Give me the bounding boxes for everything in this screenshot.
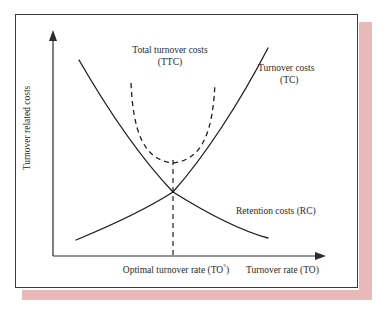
curve-total-turnover-costs (131, 83, 215, 163)
x-axis-arrowhead (315, 252, 326, 260)
y-axis-arrowhead (49, 30, 57, 41)
optimal-turnover-rate-label: Optimal turnover rate (TO°) (96, 264, 256, 276)
ttc-label-line1: Total turnover costs (106, 44, 234, 56)
ttc-curve-label: Total turnover costs (TTC) (106, 44, 234, 68)
optimal-label-suffix: ) (226, 265, 229, 275)
tc-curve-label: Turnover costs (TC) (258, 62, 354, 86)
optimal-label-prefix: Optimal turnover rate (TO (123, 265, 223, 275)
figure-root: Turnover related costs Total turnover co… (0, 0, 384, 315)
y-axis-label: Turnover related costs (22, 82, 32, 174)
tc-label-line1: Turnover costs (258, 62, 354, 74)
tc-label-line2: (TC) (258, 74, 354, 86)
ttc-label-line2: (TTC) (106, 56, 234, 68)
rc-curve-label: Retention costs (RC) (236, 205, 366, 217)
x-axis-label: Turnover rate (TO) (246, 264, 358, 276)
